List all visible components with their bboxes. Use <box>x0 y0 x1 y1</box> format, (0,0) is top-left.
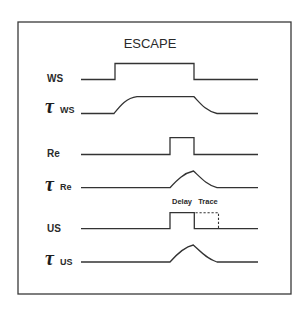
signal-label-tau-ws: WS <box>60 105 75 115</box>
tau-symbol-us: τ <box>45 247 55 269</box>
signal-trace-us <box>81 213 258 229</box>
signal-label-tau-re: Re <box>60 182 72 192</box>
diagram-title: ESCAPE <box>124 36 177 51</box>
tau-symbol-re: τ <box>45 173 55 195</box>
signal-trace-ws <box>81 64 258 80</box>
trace-interval-box <box>196 213 219 229</box>
signal-trace-tau-us <box>81 245 258 262</box>
signal-label-ws: WS <box>47 73 63 84</box>
annotation-delay: Delay <box>172 197 193 206</box>
tau-symbol-ws: τ <box>45 95 55 117</box>
signal-trace-re <box>81 138 258 155</box>
signal-label-us: US <box>47 223 61 234</box>
annotation-trace: Trace <box>198 197 218 206</box>
signal-trace-tau-ws <box>81 97 258 114</box>
signal-label-tau-us: US <box>60 257 73 267</box>
escape-timing-diagram: ESCAPE WS τ WS Re τ Re Delay Trace US τ … <box>0 0 307 313</box>
signal-label-re: Re <box>47 148 60 159</box>
signal-trace-tau-re <box>81 171 258 188</box>
